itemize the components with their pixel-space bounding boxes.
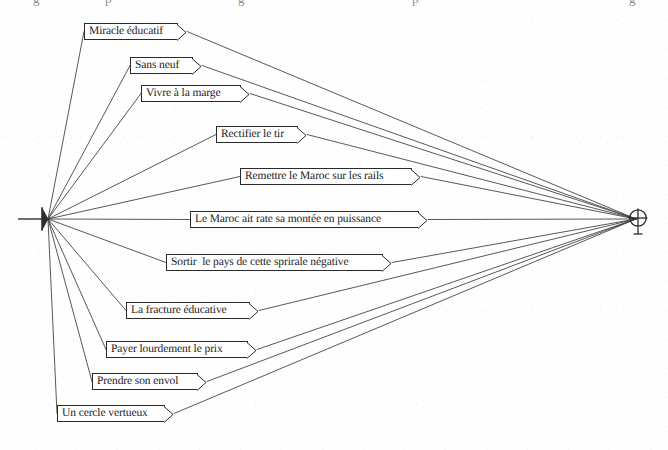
node-n4[interactable]: Rectifier le tir	[216, 126, 298, 143]
edge-source-n3	[48, 94, 141, 220]
edge-n10-target	[207, 219, 636, 382]
node-label-n1: Miracle éducatif	[84, 23, 178, 40]
node-label-n2: Sans neuf	[130, 57, 193, 74]
node-label-n4: Rectifier le tir	[216, 126, 298, 143]
node-n6[interactable]: Le Maroc ait rate sa montée en puissance	[190, 211, 419, 228]
edge-n3-target	[250, 94, 636, 220]
node-label-n10: Prendre son envol	[92, 373, 198, 390]
node-n2[interactable]: Sans neuf	[130, 57, 193, 74]
node-n5[interactable]: Remettre le Maroc sur les rails	[240, 168, 412, 185]
edge-source-n8	[48, 219, 126, 311]
edge-n9-target	[257, 219, 636, 350]
node-label-n3: Vivre à la marge	[141, 85, 241, 102]
edge-source-n4	[48, 135, 216, 220]
node-n9[interactable]: Payer lourdement le prix	[106, 341, 248, 358]
node-label-n5: Remettre le Maroc sur les rails	[240, 168, 412, 185]
edge-n7-target	[392, 219, 636, 263]
edge-n6-target	[428, 219, 636, 220]
node-label-n7: Sortir le pays de cette sprirale négativ…	[166, 254, 383, 271]
node-n10[interactable]: Prendre son envol	[92, 373, 198, 390]
node-n11[interactable]: Un cercle vertueux	[57, 405, 165, 422]
edge-n5-target	[421, 177, 636, 220]
edge-source-n1	[48, 32, 84, 220]
node-label-n11: Un cercle vertueux	[57, 405, 165, 422]
node-n7[interactable]: Sortir le pays de cette sprirale négativ…	[166, 254, 383, 271]
top-text-fragment: g	[238, 0, 245, 7]
edge-source-n2	[48, 66, 130, 220]
top-text-fragment: g	[629, 0, 636, 7]
node-label-n8: La fracture éducative	[126, 302, 250, 319]
right-hub-node[interactable]	[626, 204, 652, 238]
node-n3[interactable]: Vivre à la marge	[141, 85, 241, 102]
top-text-fragment: g	[33, 0, 40, 7]
edge-source-n9	[48, 219, 106, 350]
node-n1[interactable]: Miracle éducatif	[84, 23, 178, 40]
node-n8[interactable]: La fracture éducative	[126, 302, 250, 319]
top-text-fragment: p	[412, 0, 419, 7]
diagram-canvas: gpgpg Miracle éducatifSans neufVivre à l…	[0, 0, 668, 450]
edge-source-n7	[48, 219, 166, 263]
node-label-n6: Le Maroc ait rate sa montée en puissance	[190, 211, 419, 228]
edge-source-n6	[48, 219, 190, 220]
left-hub-node[interactable]	[18, 203, 58, 235]
top-text-fragment: p	[105, 0, 112, 7]
node-label-n9: Payer lourdement le prix	[106, 341, 248, 358]
